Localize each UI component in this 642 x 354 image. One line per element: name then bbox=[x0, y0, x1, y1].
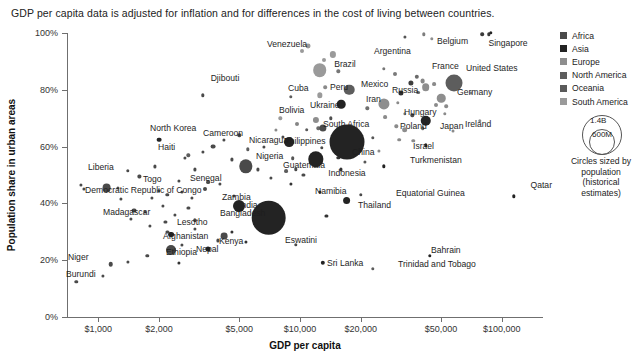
data-point[interactable] bbox=[323, 85, 327, 89]
data-point-togo[interactable] bbox=[166, 193, 169, 196]
data-point[interactable] bbox=[180, 243, 183, 246]
data-point-nicaragua[interactable] bbox=[246, 148, 249, 151]
data-point[interactable] bbox=[384, 115, 388, 119]
data-point[interactable] bbox=[270, 176, 273, 179]
data-point[interactable] bbox=[187, 206, 190, 209]
data-point-france[interactable] bbox=[422, 83, 430, 91]
data-point-trinidad-and-tobago[interactable] bbox=[371, 267, 374, 270]
data-point[interactable] bbox=[397, 138, 401, 142]
data-point[interactable] bbox=[184, 156, 187, 159]
point-label: Turkmenistan bbox=[410, 156, 462, 165]
data-point[interactable] bbox=[262, 145, 265, 148]
data-point-cameroon[interactable] bbox=[210, 144, 215, 149]
data-point[interactable] bbox=[371, 136, 374, 139]
data-point-haiti[interactable] bbox=[187, 153, 190, 156]
y-axis-tick-label: 80% bbox=[18, 85, 58, 95]
data-point[interactable] bbox=[146, 254, 149, 257]
data-point[interactable] bbox=[295, 122, 299, 126]
point-label: Liberia bbox=[88, 163, 114, 172]
x-axis-tick-label: $20,000 bbox=[326, 324, 396, 334]
data-point-liberia[interactable] bbox=[126, 169, 129, 172]
data-point[interactable] bbox=[222, 138, 225, 141]
data-point[interactable] bbox=[395, 124, 398, 127]
data-point-cuba[interactable] bbox=[289, 95, 292, 98]
data-point[interactable] bbox=[177, 179, 180, 182]
data-point[interactable] bbox=[302, 173, 305, 176]
data-point[interactable] bbox=[320, 146, 323, 149]
data-point[interactable] bbox=[244, 240, 247, 243]
data-point[interactable] bbox=[151, 196, 154, 199]
point-label: China bbox=[352, 148, 374, 157]
data-point[interactable] bbox=[126, 260, 129, 263]
data-point-thailand[interactable] bbox=[343, 197, 351, 205]
legend-swatch-icon bbox=[560, 45, 567, 52]
data-point[interactable] bbox=[193, 168, 196, 171]
data-point[interactable] bbox=[177, 261, 180, 264]
data-point-brazil[interactable] bbox=[313, 63, 327, 77]
data-point-peru[interactable] bbox=[317, 93, 322, 98]
data-point[interactable] bbox=[480, 33, 484, 37]
data-point[interactable] bbox=[325, 215, 328, 218]
data-point-niger[interactable] bbox=[108, 262, 113, 267]
data-point[interactable] bbox=[444, 104, 448, 108]
legend-item-europe[interactable]: Europe bbox=[560, 55, 642, 68]
data-point[interactable] bbox=[148, 225, 151, 228]
data-point-qatar[interactable] bbox=[512, 195, 515, 198]
data-point-sri-lanka[interactable] bbox=[321, 261, 325, 265]
data-point[interactable] bbox=[415, 75, 419, 79]
data-point[interactable] bbox=[230, 158, 233, 161]
legend-item-north-america[interactable]: North America bbox=[560, 69, 642, 82]
data-point[interactable] bbox=[289, 182, 292, 185]
data-point[interactable] bbox=[377, 149, 380, 152]
data-point[interactable] bbox=[305, 128, 309, 132]
data-point[interactable] bbox=[162, 205, 165, 208]
data-point-ukraine[interactable] bbox=[313, 117, 319, 123]
data-point-singapore[interactable] bbox=[489, 31, 492, 34]
data-point-bahrain[interactable] bbox=[428, 254, 431, 257]
data-point-nigeria[interactable] bbox=[239, 160, 252, 173]
data-point[interactable] bbox=[396, 101, 399, 104]
data-point[interactable] bbox=[393, 72, 397, 76]
data-point[interactable] bbox=[257, 168, 260, 171]
data-point[interactable] bbox=[363, 161, 366, 164]
data-point-germany[interactable] bbox=[437, 94, 445, 102]
data-point-equatorial-guinea[interactable] bbox=[359, 193, 362, 196]
data-point-bolivia[interactable] bbox=[279, 116, 282, 119]
data-point[interactable] bbox=[201, 151, 204, 154]
data-point[interactable] bbox=[300, 49, 304, 53]
data-point-argentina[interactable] bbox=[329, 51, 335, 57]
legend-item-label: Oceania bbox=[572, 83, 604, 93]
data-point[interactable] bbox=[101, 274, 104, 277]
data-point-turkmenistan[interactable] bbox=[382, 165, 385, 168]
data-point[interactable] bbox=[79, 183, 82, 186]
legend-item-south-america[interactable]: South America bbox=[560, 95, 642, 108]
data-point-burundi[interactable] bbox=[75, 280, 78, 283]
data-point-djibouti[interactable] bbox=[201, 94, 204, 97]
data-point[interactable] bbox=[403, 36, 406, 39]
data-point[interactable] bbox=[365, 107, 368, 110]
data-point[interactable] bbox=[274, 128, 277, 131]
data-point[interactable] bbox=[382, 67, 385, 70]
point-label: Israel bbox=[413, 142, 434, 151]
data-point[interactable] bbox=[443, 112, 446, 115]
data-point-belgium[interactable] bbox=[430, 37, 433, 40]
x-axis-tick-label: $50,000 bbox=[406, 324, 476, 334]
legend-item-oceania[interactable]: Oceania bbox=[560, 82, 642, 95]
data-point[interactable] bbox=[138, 175, 141, 178]
point-label: Germany bbox=[457, 88, 492, 97]
data-point[interactable] bbox=[153, 165, 156, 168]
data-point[interactable] bbox=[337, 70, 340, 73]
data-point[interactable] bbox=[422, 33, 425, 36]
data-point-namibia[interactable] bbox=[294, 168, 297, 171]
legend-item-africa[interactable]: Africa bbox=[560, 29, 642, 42]
data-point[interactable] bbox=[120, 198, 123, 201]
data-point[interactable] bbox=[230, 230, 233, 233]
data-point[interactable] bbox=[129, 217, 132, 220]
legend-item-asia[interactable]: Asia bbox=[560, 42, 642, 55]
data-point[interactable] bbox=[190, 196, 193, 199]
data-point-zambia[interactable] bbox=[203, 187, 207, 191]
data-point[interactable] bbox=[432, 82, 436, 86]
data-point[interactable] bbox=[322, 58, 326, 62]
point-label: Japan bbox=[440, 122, 463, 131]
data-point[interactable] bbox=[164, 220, 167, 223]
